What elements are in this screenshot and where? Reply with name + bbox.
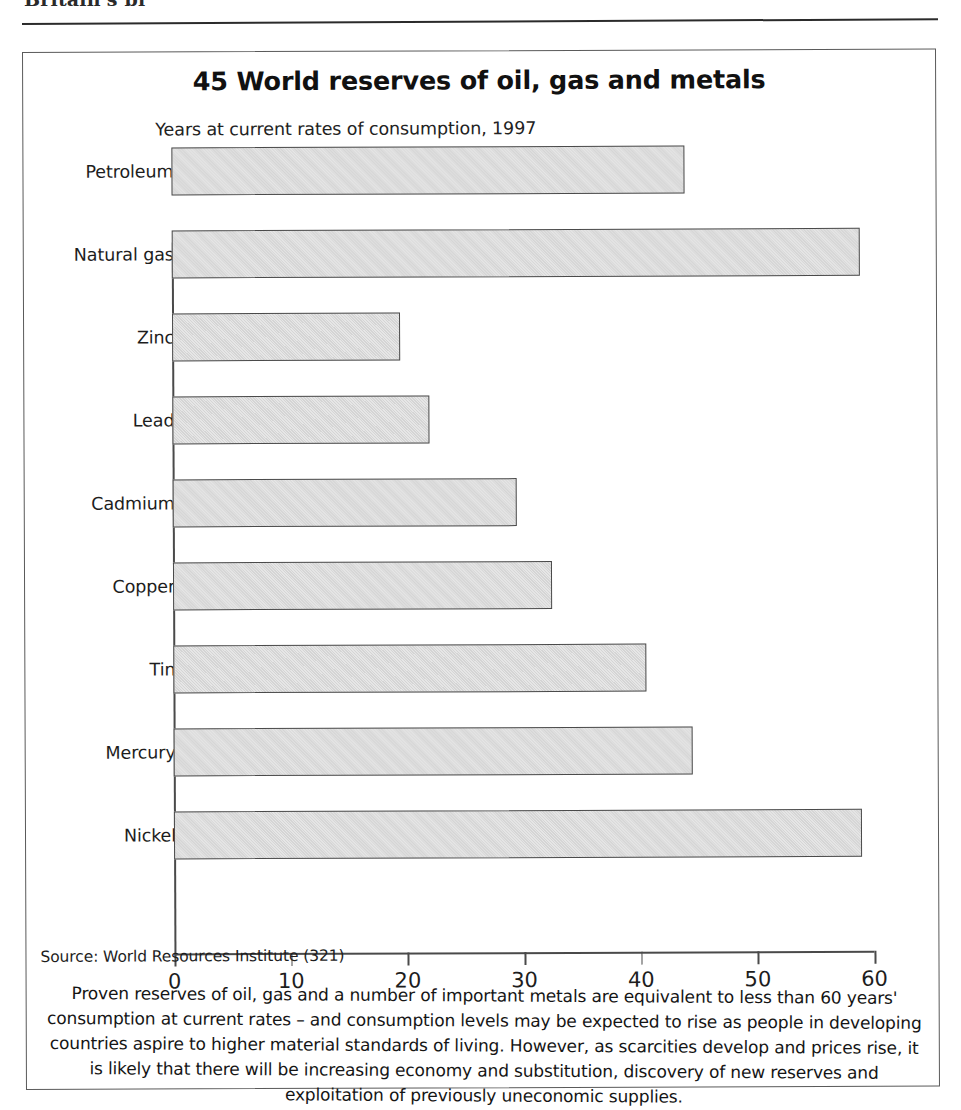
chart-subtitle: Years at current rates of consumption, 1… xyxy=(155,118,536,139)
category-label: Petroleum xyxy=(85,161,173,181)
bar-row: Petroleum xyxy=(23,144,937,196)
plot-area: PetroleumNatural gasZincLeadCadmiumCoppe… xyxy=(23,144,940,938)
bar-zinc xyxy=(172,313,400,362)
bar-row: Natural gas xyxy=(24,227,938,279)
category-label: Zinc xyxy=(137,327,174,347)
bar-petroleum xyxy=(171,145,685,195)
figure-frame: 45 World reserves of oil, gas and metals… xyxy=(22,48,940,1090)
bar-row: Mercury xyxy=(26,725,940,777)
x-axis-tick xyxy=(408,953,410,966)
category-label: Copper xyxy=(112,576,175,596)
bar-mercury xyxy=(174,726,693,776)
bar-row: Copper xyxy=(25,559,939,611)
bar-row: Nickel xyxy=(26,808,940,860)
figure-caption-text: Proven reserves of oil, gas and a number… xyxy=(47,983,922,1107)
x-axis-tick xyxy=(758,951,760,964)
category-label: Mercury xyxy=(105,742,175,762)
figure-caption: Proven reserves of oil, gas and a number… xyxy=(42,981,927,1110)
page-running-head: Britain's bl xyxy=(0,0,961,34)
chart-title: 45 World reserves of oil, gas and metals xyxy=(23,63,935,97)
x-axis-tick xyxy=(524,952,526,965)
category-label: Natural gas xyxy=(74,244,174,264)
bar-row: Zinc xyxy=(24,310,938,362)
category-label: Lead xyxy=(133,410,175,430)
category-label: Tin xyxy=(150,659,176,679)
bar-row: Lead xyxy=(24,393,938,445)
bar-lead xyxy=(172,395,429,444)
header-rule xyxy=(22,18,938,25)
bar-cadmium xyxy=(173,478,517,527)
source-line: Source: World Resources Institute (321) xyxy=(40,947,344,966)
bar-tin xyxy=(173,644,646,694)
x-axis-tick xyxy=(641,952,643,965)
bar-row: Cadmium xyxy=(25,476,939,528)
bar-natural-gas xyxy=(172,228,861,279)
bar-copper xyxy=(173,561,552,610)
running-head-text: Britain's bl xyxy=(24,0,145,10)
bar-row: Tin xyxy=(25,642,939,694)
bar-nickel xyxy=(174,809,863,860)
category-label: Cadmium xyxy=(91,493,174,513)
x-axis-tick xyxy=(874,951,876,964)
category-label: Nickel xyxy=(124,825,176,845)
